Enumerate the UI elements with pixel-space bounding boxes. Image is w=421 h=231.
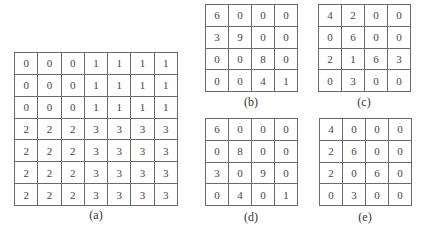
- matrix-cell: 1: [275, 184, 298, 206]
- matrix-cell: 0: [319, 70, 342, 92]
- matrix-cell: 2: [38, 118, 61, 140]
- matrix-cell: 1: [342, 48, 365, 70]
- matrix-cell: 2: [61, 118, 84, 140]
- matrix-cell: 2: [319, 48, 342, 70]
- matrix-row: 2163: [319, 48, 411, 70]
- matrix-row: 2060: [320, 162, 412, 184]
- matrix-cell: 0: [15, 74, 38, 96]
- matrix-cell: 3: [108, 140, 131, 162]
- matrix-row: 4200: [319, 5, 411, 27]
- matrix-cell: 3: [154, 184, 177, 206]
- matrix-row: 0401: [206, 184, 298, 206]
- caption-d: (d): [235, 210, 267, 225]
- matrix-cell: 2: [342, 5, 365, 27]
- matrix-cell: 0: [252, 119, 275, 141]
- matrix-cell: 0: [252, 5, 275, 27]
- matrix-cell: 3: [154, 162, 177, 184]
- matrix-cell: 2: [320, 140, 343, 162]
- matrix-cell: 1: [275, 70, 298, 92]
- matrix-cell: 0: [38, 53, 61, 75]
- matrix-cell: 0: [275, 162, 298, 184]
- matrix-cell: 8: [229, 140, 252, 162]
- matrix-cell: 9: [252, 162, 275, 184]
- matrix-cell: 0: [365, 70, 388, 92]
- matrix-cell: 2: [38, 184, 61, 206]
- matrix-cell: 0: [15, 96, 38, 118]
- matrix-cell: 6: [343, 140, 366, 162]
- matrix-cell: 6: [206, 5, 229, 27]
- matrix-row: 2223333: [15, 184, 178, 206]
- matrix-cell: 0: [252, 140, 275, 162]
- matrix-cell: 0: [229, 48, 252, 70]
- matrix-cell: 1: [84, 96, 107, 118]
- matrix-row: 0080: [206, 48, 298, 70]
- matrix-cell: 4: [320, 119, 343, 141]
- panel-c: 4200060021630300: [318, 4, 411, 92]
- matrix-cell: 3: [108, 184, 131, 206]
- matrix-cell: 0: [15, 53, 38, 75]
- matrix-a: 0001111000111100011112223333222333322233…: [14, 52, 178, 206]
- matrix-b: 6000390000800041: [205, 4, 298, 92]
- matrix-cell: 0: [38, 74, 61, 96]
- matrix-cell: 0: [365, 26, 388, 48]
- matrix-cell: 3: [108, 162, 131, 184]
- matrix-cell: 0: [275, 48, 298, 70]
- matrix-cell: 0: [275, 140, 298, 162]
- caption-c: (c): [348, 95, 380, 110]
- matrix-row: 0041: [206, 70, 298, 92]
- matrix-cell: 6: [206, 119, 229, 141]
- caption-b: (b): [235, 95, 267, 110]
- matrix-cell: 1: [131, 74, 154, 96]
- matrix-cell: 4: [319, 5, 342, 27]
- matrix-cell: 3: [154, 118, 177, 140]
- matrix-cell: 3: [388, 48, 411, 70]
- matrix-cell: 3: [342, 70, 365, 92]
- matrix-cell: 0: [388, 5, 411, 27]
- matrix-cell: 0: [229, 70, 252, 92]
- matrix-cell: 0: [275, 5, 298, 27]
- matrix-cell: 0: [320, 184, 343, 206]
- matrix-cell: 2: [15, 162, 38, 184]
- matrix-cell: 1: [131, 53, 154, 75]
- matrix-cell: 4: [252, 70, 275, 92]
- matrix-cell: 1: [154, 53, 177, 75]
- matrix-cell: 0: [366, 119, 389, 141]
- matrix-cell: 1: [131, 96, 154, 118]
- matrix-row: 0300: [320, 184, 412, 206]
- matrix-cell: 0: [206, 70, 229, 92]
- matrix-cell: 2: [320, 162, 343, 184]
- matrix-row: 0001111: [15, 53, 178, 75]
- matrix-cell: 0: [389, 162, 412, 184]
- matrix-cell: 1: [108, 53, 131, 75]
- matrix-cell: 2: [15, 118, 38, 140]
- matrix-cell: 2: [38, 162, 61, 184]
- matrix-cell: 0: [206, 140, 229, 162]
- matrix-cell: 3: [84, 118, 107, 140]
- matrix-cell: 0: [206, 184, 229, 206]
- matrix-row: 0600: [319, 26, 411, 48]
- matrix-cell: 3: [206, 26, 229, 48]
- matrix-cell: 3: [131, 184, 154, 206]
- matrix-cell: 2: [15, 184, 38, 206]
- matrix-cell: 0: [61, 96, 84, 118]
- caption-a: (a): [80, 208, 112, 223]
- matrix-cell: 1: [84, 53, 107, 75]
- matrix-cell: 8: [252, 48, 275, 70]
- matrix-row: 4000: [320, 119, 412, 141]
- panel-d: 6000080030900401: [205, 118, 298, 206]
- matrix-cell: 1: [108, 74, 131, 96]
- panel-e: 4000260020600300: [319, 118, 412, 206]
- panel-a: 0001111000111100011112223333222333322233…: [14, 52, 178, 206]
- matrix-c: 4200060021630300: [318, 4, 411, 92]
- matrix-cell: 0: [365, 5, 388, 27]
- matrix-row: 2223333: [15, 162, 178, 184]
- matrix-cell: 0: [252, 184, 275, 206]
- matrix-d: 6000080030900401: [205, 118, 298, 206]
- matrix-cell: 0: [61, 74, 84, 96]
- matrix-cell: 6: [366, 162, 389, 184]
- matrix-cell: 3: [84, 162, 107, 184]
- matrix-cell: 0: [38, 96, 61, 118]
- matrix-cell: 2: [61, 162, 84, 184]
- matrix-cell: 3: [108, 118, 131, 140]
- matrix-cell: 0: [343, 162, 366, 184]
